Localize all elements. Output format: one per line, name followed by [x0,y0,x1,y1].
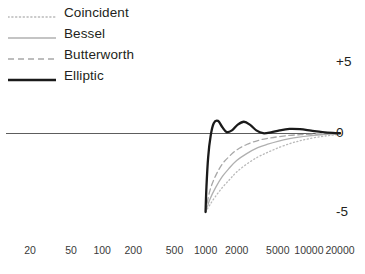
y-tick-label-zero: 0 [336,126,344,140]
legend-item-bessel: Bessel [0,23,180,44]
legend-line-dashed-icon [8,50,56,60]
x-tick-label-20000: 20000 [325,245,354,256]
x-axis-tick-labels: 20501002005001000200050001000020000 [0,245,365,261]
legend-item-butterworth: Butterworth [0,44,180,65]
legend-label-coincident: Coincident [64,6,129,20]
x-tick-label-500: 500 [166,245,184,256]
chart-root: Coincident Bessel Butterworth [0,0,365,274]
x-tick-label-5000: 5000 [266,245,289,256]
series-line-coincident [206,134,340,212]
series-line-elliptic [206,121,340,212]
x-tick-label-10000: 10000 [294,245,323,256]
x-tick-label-100: 100 [93,245,111,256]
x-tick-label-50: 50 [65,245,77,256]
x-tick-label-2000: 2000 [225,245,248,256]
x-tick-label-20: 20 [24,245,36,256]
chart-legend: Coincident Bessel Butterworth [0,2,180,86]
legend-label-butterworth: Butterworth [64,48,134,62]
legend-label-bessel: Bessel [64,27,105,41]
chart-series-group [206,121,340,212]
series-line-butterworth [206,134,340,213]
legend-line-solid-light-icon [8,29,56,39]
legend-line-solid-dark-icon [8,71,56,81]
legend-item-coincident: Coincident [0,2,180,23]
x-tick-label-1000: 1000 [194,245,217,256]
legend-label-elliptic: Elliptic [64,69,104,83]
legend-item-elliptic: Elliptic [0,65,180,86]
x-tick-label-200: 200 [125,245,143,256]
legend-line-dotted-icon [8,8,56,18]
series-line-bessel [206,134,340,212]
y-tick-label-minus5: -5 [336,205,348,219]
y-tick-label-plus5: +5 [336,55,351,69]
